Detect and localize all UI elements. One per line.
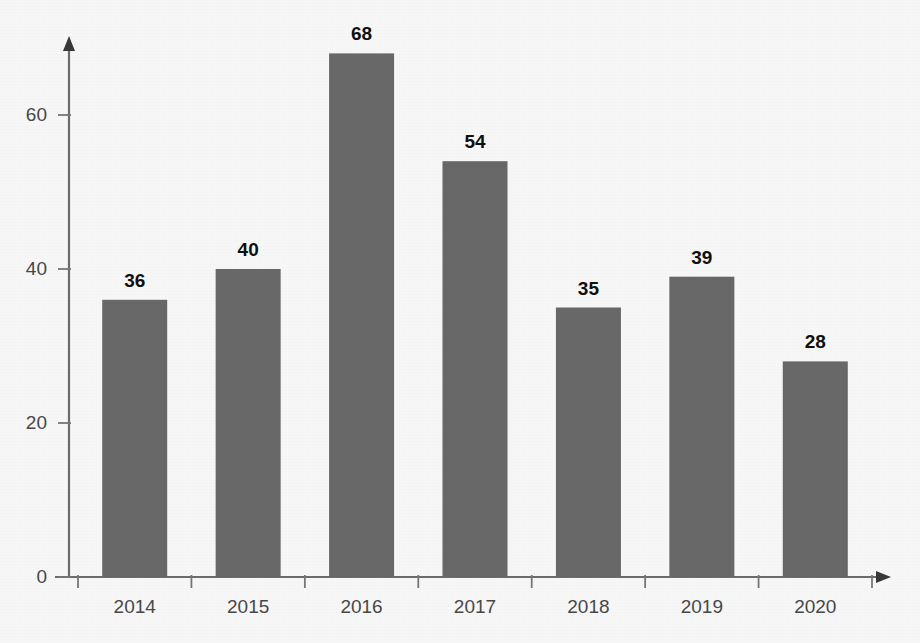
y-axis-tick-label: 20 — [26, 412, 47, 433]
x-axis-label-2016: 2016 — [340, 596, 382, 617]
bar-value-label-2014: 36 — [124, 270, 145, 291]
x-axis-arrow-icon — [876, 571, 891, 583]
x-axis-label-2019: 2019 — [681, 596, 723, 617]
bar-chart-figure: 0204060 36406854353928 20142015201620172… — [0, 0, 920, 643]
bar-2016 — [329, 53, 394, 577]
bar-2015 — [216, 269, 281, 577]
bar-value-label-2016: 68 — [351, 23, 372, 44]
y-axis-tick-label: 40 — [26, 258, 47, 279]
x-axis-label-2020: 2020 — [794, 596, 836, 617]
bar-2020 — [783, 361, 848, 577]
y-axis-tick-label: 0 — [36, 566, 47, 587]
bar-2018 — [556, 308, 621, 578]
chart-canvas: 0204060 36406854353928 20142015201620172… — [0, 0, 920, 643]
x-axis-label-2014: 2014 — [114, 596, 157, 617]
bar-value-label-2017: 54 — [464, 131, 486, 152]
y-axis-ticks: 0204060 — [26, 104, 71, 587]
x-axis-labels: 2014201520162017201820192020 — [114, 596, 837, 617]
bar-value-label-2015: 40 — [238, 239, 259, 260]
bar-2019 — [669, 277, 734, 577]
bar-2017 — [443, 161, 508, 577]
y-axis-tick-label: 60 — [26, 104, 47, 125]
x-axis-label-2017: 2017 — [454, 596, 496, 617]
x-axis-label-2018: 2018 — [567, 596, 609, 617]
y-axis-arrow-icon — [63, 36, 75, 51]
bar-value-label-2018: 35 — [578, 278, 600, 299]
bar-2014 — [102, 300, 167, 577]
x-axis-label-2015: 2015 — [227, 596, 269, 617]
bar-value-label-2020: 28 — [805, 331, 826, 352]
bar-value-label-2019: 39 — [691, 247, 712, 268]
